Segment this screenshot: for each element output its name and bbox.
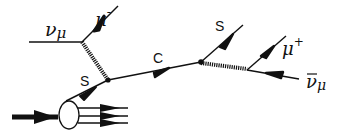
label-charm: C [153,50,163,66]
label-muon-plus: μ+ [282,35,304,59]
label-antineutrino: νμ [306,71,326,93]
label-strange-in: S [80,73,89,89]
hadron-remnant-lines [78,104,128,127]
feynman-diagram: νμ μ- S C S μ+ νμ [0,0,338,137]
muon-plus-line [247,36,286,70]
label-neutrino: νμ [45,18,66,42]
incoming-nucleon-arrow [12,110,58,124]
nucleon-blob-icon [59,101,79,129]
label-muon-minus: μ- [95,4,111,30]
label-strange-out: S [215,18,224,34]
antineutrino-line [247,70,299,79]
svg-text:νμ: νμ [306,71,326,93]
w-boson-propagator-2 [201,63,247,69]
